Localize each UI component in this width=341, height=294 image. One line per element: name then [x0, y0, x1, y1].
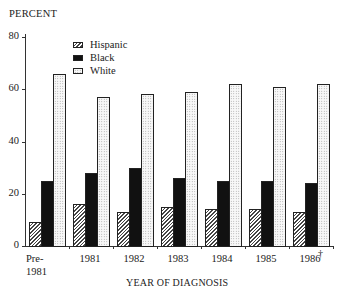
- y-tick: [22, 194, 26, 195]
- bar-white: [53, 74, 66, 247]
- y-tick: [22, 37, 26, 38]
- y-axis-title: PERCENT: [9, 8, 57, 19]
- legend: Hispanic Black White: [73, 38, 127, 77]
- x-tick: [333, 246, 334, 249]
- x-tick-label: 1982: [114, 252, 154, 265]
- x-tick: [245, 246, 246, 249]
- bar-white: [185, 92, 198, 247]
- y-tick: [22, 142, 26, 143]
- legend-item-white: White: [73, 64, 127, 77]
- y-axis: [25, 34, 26, 247]
- x-tick: [289, 246, 290, 249]
- legend-item-hispanic: Hispanic: [73, 38, 127, 51]
- x-tick: [69, 246, 70, 249]
- bar-white: [229, 84, 242, 247]
- x-tick-label: 1983: [158, 252, 198, 265]
- y-tick-label: 60: [9, 82, 20, 93]
- hatched-swatch-icon: [73, 42, 83, 48]
- x-tick-label: 1985: [246, 252, 286, 265]
- x-tick-label: 1984: [202, 252, 242, 265]
- dagger-annotation: †: [318, 248, 323, 259]
- y-tick: [22, 89, 26, 90]
- y-tick-label: 0: [14, 239, 19, 250]
- legend-item-black: Black: [73, 51, 127, 64]
- dotted-swatch-icon: [73, 68, 83, 74]
- y-tick-label: 40: [9, 135, 20, 146]
- x-tick: [113, 246, 114, 249]
- x-tick-label: 1981: [70, 252, 110, 265]
- x-tick: [157, 246, 158, 249]
- bar-white: [141, 94, 154, 247]
- y-tick-label: 80: [9, 30, 20, 41]
- x-tick-label: Pre-1981: [26, 252, 66, 278]
- bar-white: [97, 97, 110, 247]
- y-tick-label: 20: [9, 187, 20, 198]
- x-tick-label: 1986: [290, 252, 330, 265]
- bar-white: [317, 84, 330, 247]
- solid-swatch-icon: [73, 55, 83, 61]
- bar-white: [273, 87, 286, 247]
- x-axis-title: YEAR OF DIAGNOSIS: [126, 277, 228, 288]
- x-tick: [201, 246, 202, 249]
- y-tick: [22, 246, 26, 247]
